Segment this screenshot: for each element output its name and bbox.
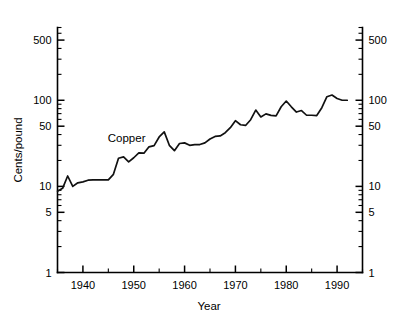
y-axis-left-ticks (58, 28, 65, 273)
x-axis-title: Year (197, 300, 220, 312)
axis-frame (58, 28, 363, 273)
series-annotation-copper: Copper (108, 132, 146, 144)
y-tick-label-left: 5 (45, 206, 51, 218)
y-tick-label-right: 5 (369, 206, 375, 218)
y-axis-left-labels: 151050100500 (33, 34, 51, 278)
y-tick-label-left: 500 (33, 34, 51, 46)
data-series-layer (58, 95, 348, 191)
copper-price-chart-figure: 151050100500 151050100500 19401950196019… (0, 0, 414, 317)
x-tick-label: 1950 (122, 279, 146, 291)
y-tick-label-right: 10 (369, 180, 381, 192)
y-tick-label-left: 100 (33, 94, 51, 106)
y-tick-label-right: 500 (369, 34, 387, 46)
data-line-copper (58, 95, 348, 191)
y-tick-label-left: 10 (39, 180, 51, 192)
x-tick-label: 1990 (325, 279, 349, 291)
y-axis-right-ticks (356, 28, 363, 273)
x-tick-label: 1960 (172, 279, 196, 291)
y-axis-right-labels: 151050100500 (369, 34, 387, 278)
y-tick-label-left: 1 (45, 267, 51, 279)
x-axis-ticks (58, 266, 363, 273)
x-tick-label: 1940 (71, 279, 95, 291)
y-tick-label-right: 100 (369, 94, 387, 106)
x-tick-label: 1970 (223, 279, 247, 291)
y-tick-label-right: 1 (369, 267, 375, 279)
y-tick-label-right: 50 (369, 120, 381, 132)
x-tick-label: 1980 (274, 279, 298, 291)
y-axis-title: Cents/pound (12, 117, 24, 182)
x-axis-labels: 194019501960197019801990 (71, 279, 350, 291)
y-tick-label-left: 50 (39, 120, 51, 132)
chart-canvas: 151050100500 151050100500 19401950196019… (0, 0, 414, 317)
